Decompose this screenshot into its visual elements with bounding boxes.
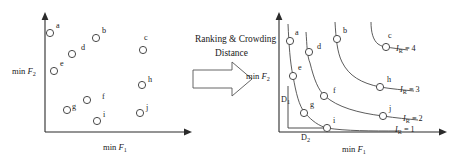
right-label-e: e [298,63,302,72]
left-y-axis-arrowhead [42,12,49,20]
right-label-f: f [333,86,336,95]
front-rank-label-1: IR = 1 [394,125,415,135]
left-point-h [138,81,145,88]
left-label-i: i [103,110,106,119]
left-point-e [50,67,57,74]
right-point-h [376,83,383,90]
left-label-a: a [56,21,60,30]
diagram-canvas: a b c d e f g h i j min F2 min F1 Rankin… [0,0,454,161]
left-label-d: d [81,43,85,52]
left-label-h: h [148,75,152,84]
left-point-b [92,34,99,41]
left-point-i [93,117,100,124]
right-label-b: b [343,26,347,35]
left-ylabel-prefix: min [12,66,28,76]
left-label-e: e [60,59,64,68]
right-point-b [333,35,340,42]
front-rank-label-4: IR = 4 [395,44,416,54]
right-ylabel-prefix: min [246,71,262,81]
transform-caption-line1: Ranking & Crowding [195,34,277,44]
left-xlabel-sub: 1 [124,146,127,153]
front-curve-rank-2 [306,32,418,120]
transform-caption-line2: Distance [215,48,248,58]
right-label-h: h [387,75,391,84]
left-plot: a b c d e f g h i j min F2 min F1 [12,12,192,153]
right-label-g: g [310,100,314,109]
right-point-c [382,43,389,50]
front-rank-label-3: IR = 3 [399,85,420,95]
right-x-axis-label: min F1 [342,144,366,155]
right-x-axis-arrowhead [439,129,447,136]
left-point-j [136,109,143,116]
right-point-a [286,37,293,44]
right-point-j [379,112,386,119]
right-point-g [300,109,307,116]
right-label-i: i [333,116,336,125]
left-ylabel-sub: 2 [33,70,36,77]
crowding-distance-box [288,86,323,128]
svg-text:min F2: min F2 [246,71,270,82]
left-label-b: b [102,26,106,35]
svg-text:min F2: min F2 [12,66,36,77]
left-label-j: j [145,103,148,112]
right-label-a: a [295,28,299,37]
right-xlabel-prefix: min [342,144,358,154]
figure-container: a b c d e f g h i j min F2 min F1 Rankin… [0,0,454,161]
left-point-a [46,29,53,36]
left-label-g: g [72,102,76,111]
transform-annotation: Ranking & Crowding Distance [193,34,277,96]
left-point-c [139,46,146,53]
right-y-axis-arrowhead [276,12,283,20]
left-x-axis-arrowhead [184,129,192,136]
right-point-e [289,72,296,79]
right-label-j: j [388,104,391,113]
right-xlabel-sub: 1 [363,148,366,155]
svg-text:min F1: min F1 [342,144,366,155]
block-right-arrow-icon [193,62,252,96]
right-y-axis-label: min F2 [246,71,270,82]
left-label-c: c [144,33,148,42]
left-point-d [68,50,75,57]
right-label-c: c [388,31,392,40]
left-point-g [63,106,70,113]
left-point-f [83,96,90,103]
right-point-d [305,48,312,55]
crowding-distance-d2-label: D2 [301,133,310,143]
left-xlabel-prefix: min [103,142,119,152]
right-point-i [323,124,330,131]
left-x-axis-label: min F1 [103,142,127,153]
right-label-d: d [317,42,321,51]
front-rank-label-2: IR = 2 [402,114,423,124]
crowding-distance-d1-label: D1 [281,95,290,105]
right-point-f [320,92,327,99]
left-label-f: f [102,92,105,101]
left-y-axis-label: min F2 [12,66,36,77]
right-ylabel-sub: 2 [267,75,270,82]
svg-text:min F1: min F1 [103,142,127,153]
